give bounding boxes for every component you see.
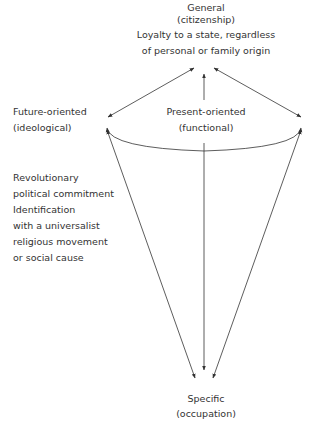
specific-title: Specific [188,393,225,405]
arrow-left-cone [107,130,195,378]
general-title: General [187,2,224,14]
general-subtitle: (citizenship) [177,14,235,26]
future-examples: Revolutionary political commitment Ident… [13,170,114,266]
future-example-line: Revolutionary [13,170,114,186]
general-description-line: Loyalty to a state, regardless [137,29,275,41]
general-description-line: of personal or family origin [142,45,270,57]
future-example-line: or social cause [13,250,114,266]
present-oriented-title: Present-oriented [166,106,245,118]
present-oriented-subtitle: (functional) [179,122,234,134]
future-oriented-subtitle: (ideological) [13,122,72,134]
specific-subtitle: (occupation) [176,408,236,420]
future-oriented-title: Future-oriented [13,106,87,118]
future-example-line: Identification [13,202,114,218]
arrow-right-cone [213,130,301,378]
future-example-line: political commitment [13,186,114,202]
future-example-line: with a universalist [13,218,114,234]
future-example-line: religious movement [13,234,114,250]
